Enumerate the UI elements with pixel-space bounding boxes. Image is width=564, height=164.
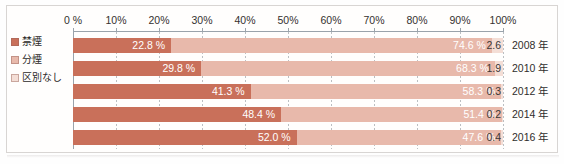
bar-value-label-kinen: 48.4 %	[73, 107, 275, 122]
bar-row: 29.8 %68.3 %1.9	[73, 61, 503, 76]
legend-item-label: 区別なし	[22, 73, 62, 83]
x-axis-tick-label: 10%	[105, 14, 126, 26]
bar-row: 52.0 %47.6 %0.4	[73, 130, 503, 145]
bar-value-label-bunen: 74.6 %	[171, 38, 486, 53]
bar-value-label-kinen: 41.3 %	[73, 84, 245, 99]
bar-value-label-kinen: 22.8 %	[73, 38, 165, 53]
gridline	[503, 32, 504, 149]
legend-swatch-icon	[11, 56, 19, 64]
x-axis-tick-label: 60%	[320, 14, 341, 26]
x-axis-tick-label: 50%	[277, 14, 298, 26]
x-axis-tick-label: 0 %	[64, 14, 82, 26]
x-axis-tick	[73, 28, 74, 32]
x-axis-tick-label: 70%	[363, 14, 384, 26]
bar-segment-kubetsu-nashi[interactable]	[502, 107, 503, 122]
x-axis-tick-label: 80%	[406, 14, 427, 26]
category-label-year: 2008 年	[512, 38, 548, 53]
category-label-year: 2016 年	[512, 130, 548, 145]
x-axis-tick-label: 20%	[148, 14, 169, 26]
x-axis-tick-label: 40%	[234, 14, 255, 26]
x-axis-tick-label: 100%	[490, 14, 517, 26]
bar-value-label-kubetsu-nashi: 1.9	[443, 61, 501, 76]
bar-segment-kubetsu-nashi[interactable]	[501, 130, 503, 145]
category-label-year: 2014 年	[512, 107, 548, 122]
bar-row: 22.8 %74.6 %2.6	[73, 38, 503, 53]
legend-item[interactable]: 禁煙	[11, 33, 73, 51]
legend-item-label: 分煙	[22, 55, 42, 65]
bar-segment-kubetsu-nashi[interactable]	[501, 84, 502, 99]
bar-value-label-kubetsu-nashi: 0.2	[443, 107, 501, 122]
x-axis-tick-label: 30%	[191, 14, 212, 26]
plot-area: 22.8 %74.6 %2.629.8 %68.3 %1.941.3 %58.3…	[73, 31, 503, 149]
chart-legend: 禁煙分煙区別なし	[11, 33, 73, 87]
legend-item[interactable]: 区別なし	[11, 69, 73, 87]
category-label-year: 2010 年	[512, 61, 548, 76]
bar-row: 48.4 %51.4 %0.2	[73, 107, 503, 122]
bar-value-label-kinen: 52.0 %	[73, 130, 291, 145]
frame-shadow	[7, 155, 559, 158]
bar-value-label-kinen: 29.8 %	[73, 61, 195, 76]
legend-item-label: 禁煙	[22, 37, 42, 47]
bar-value-label-kubetsu-nashi: 0.3	[443, 84, 501, 99]
legend-swatch-icon	[11, 38, 19, 46]
x-axis-tick-label: 90%	[449, 14, 470, 26]
stacked-bar-chart-figure: 禁煙分煙区別なし 22.8 %74.6 %2.629.8 %68.3 %1.94…	[0, 0, 564, 164]
bar-row: 41.3 %58.3 %0.3	[73, 84, 503, 99]
bar-value-label-kubetsu-nashi: 2.6	[443, 38, 501, 53]
legend-item[interactable]: 分煙	[11, 51, 73, 69]
legend-swatch-icon	[11, 74, 19, 82]
category-label-year: 2012 年	[512, 84, 548, 99]
bar-value-label-kubetsu-nashi: 0.4	[443, 130, 501, 145]
